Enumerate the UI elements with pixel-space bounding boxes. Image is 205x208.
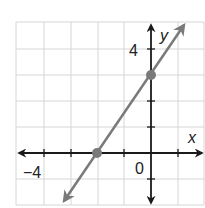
coordinate-plane: y x 4 −4 0 [0,0,205,208]
grid [16,22,204,205]
x-tick-label-neg4: −4 [23,164,41,181]
point-y-intercept [146,70,156,80]
origin-label: 0 [135,160,144,177]
y-tick-label-4: 4 [129,42,138,59]
y-axis-label: y [159,27,169,44]
axis-ticks [44,49,178,179]
point-x-intercept [92,148,102,158]
x-axis-label: x [187,129,197,146]
